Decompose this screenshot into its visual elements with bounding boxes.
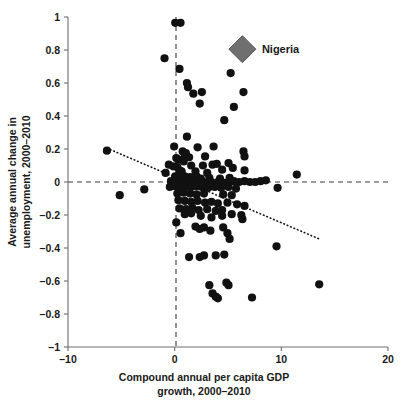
x-tick-label: 10 — [275, 353, 287, 365]
y-tick-label: 0.2 — [45, 143, 60, 155]
data-point — [228, 210, 236, 218]
data-point — [293, 170, 301, 178]
data-point — [175, 65, 183, 73]
data-point — [176, 19, 184, 27]
y-axis-title-line1: Average annual change in — [6, 117, 18, 247]
y-tick-label: –0.6 — [40, 275, 61, 287]
x-tick-label: 0 — [172, 353, 178, 365]
data-point — [189, 90, 197, 98]
data-point — [198, 88, 206, 96]
chart-canvas: –1–0.8–0.6–0.4–0.200.20.40.60.81 –100102… — [0, 0, 408, 407]
data-point — [160, 54, 168, 62]
data-point — [185, 253, 193, 261]
data-point — [187, 209, 195, 217]
y-tick-label: –0.4 — [40, 242, 61, 254]
data-point — [212, 251, 220, 259]
data-point — [229, 164, 237, 172]
data-point — [239, 88, 247, 96]
data-point — [262, 176, 270, 184]
y-tick-label: 0.4 — [45, 110, 60, 122]
data-point — [240, 166, 248, 174]
data-point — [240, 152, 248, 160]
data-point — [315, 280, 323, 288]
y-tick-label: 0.8 — [45, 44, 60, 56]
data-point — [203, 205, 211, 213]
data-point — [272, 242, 280, 250]
x-tick-label: 20 — [382, 353, 394, 365]
data-point — [116, 191, 124, 199]
y-tick-label: –0.8 — [40, 308, 61, 320]
data-point — [224, 281, 232, 289]
y-tick-label: 1 — [54, 11, 60, 23]
data-point — [197, 212, 205, 220]
data-point — [176, 229, 184, 237]
data-point — [180, 157, 188, 165]
data-point — [224, 183, 232, 191]
data-point — [226, 235, 234, 243]
data-point — [210, 142, 218, 150]
data-point — [200, 251, 208, 259]
data-point — [170, 142, 178, 150]
data-point — [206, 227, 214, 235]
y-tick-label: 0.6 — [45, 77, 60, 89]
data-point — [228, 191, 236, 199]
data-point — [220, 116, 228, 124]
data-point — [172, 218, 180, 226]
data-point — [240, 202, 248, 210]
data-point — [199, 161, 207, 169]
x-axis-title-line1: Compound annual per capita GDP — [119, 371, 289, 383]
y-axis-title-line2: unemployment, 2000–2010 — [20, 115, 32, 248]
data-point — [218, 212, 226, 220]
data-point — [196, 100, 204, 108]
nigeria-label: Nigeria — [262, 43, 300, 55]
y-tick-label: –0.2 — [40, 209, 61, 221]
data-point — [238, 215, 246, 223]
data-point — [274, 184, 282, 192]
data-point — [248, 293, 256, 301]
data-point — [183, 133, 191, 141]
data-point — [205, 281, 213, 289]
data-point — [184, 83, 192, 91]
data-point — [220, 251, 228, 259]
data-point — [201, 152, 209, 160]
data-point — [227, 69, 235, 77]
data-point — [218, 166, 226, 174]
x-tick-label: –10 — [59, 353, 77, 365]
y-tick-label: –1 — [48, 341, 60, 353]
data-point — [194, 143, 202, 151]
y-tick-label: 0 — [54, 176, 60, 188]
data-point — [223, 199, 231, 207]
data-point — [194, 197, 202, 205]
x-axis-title-line2: growth, 2000–2010 — [157, 385, 251, 397]
data-point — [140, 185, 148, 193]
data-point — [207, 213, 215, 221]
data-point — [214, 294, 222, 302]
scatter-plot-figure: –1–0.8–0.6–0.4–0.200.20.40.60.81 –100102… — [0, 0, 408, 407]
data-point — [230, 103, 238, 111]
